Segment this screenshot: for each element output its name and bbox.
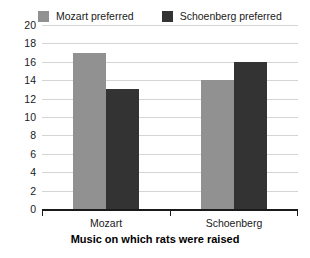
legend-label-mozart-preferred: Mozart preferred [56, 11, 134, 22]
legend-item-mozart-preferred: Mozart preferred [38, 11, 134, 22]
y-axis-tick-label: 8 [0, 130, 36, 140]
y-axis-tick-label: 4 [0, 167, 36, 177]
y-axis-tick-labels: 02468101214161820 [0, 25, 36, 209]
legend-label-schoenberg-preferred: Schoenberg preferred [180, 11, 282, 22]
y-axis-tick-label: 0 [0, 204, 36, 214]
chart-legend: Mozart preferred Schoenberg preferred [38, 6, 302, 26]
y-axis-tick-label: 10 [0, 112, 36, 122]
bar-chart: Mozart preferred Schoenberg preferred 02… [0, 0, 310, 258]
y-axis-tick-label: 12 [0, 94, 36, 104]
legend-item-schoenberg-preferred: Schoenberg preferred [162, 11, 282, 22]
y-axis-tick-label: 6 [0, 149, 36, 159]
x-axis-tick-start [42, 211, 43, 216]
y-axis-tick-label: 16 [0, 57, 36, 67]
x-axis-title: Music on which rats were raised [0, 233, 310, 245]
y-axis-tick-label: 2 [0, 186, 36, 196]
x-axis-category-label: Schoenberg [170, 217, 298, 230]
x-axis-category-label: Mozart [42, 217, 170, 230]
x-axis-tick-end [297, 211, 298, 216]
bar [73, 53, 106, 209]
bars-layer [42, 25, 298, 209]
legend-swatch-icon-mozart [38, 11, 49, 22]
y-axis-tick-label: 14 [0, 75, 36, 85]
y-axis-tick-label: 18 [0, 38, 36, 48]
bar [106, 89, 139, 209]
x-axis-tick-middle [170, 211, 171, 216]
legend-swatch-icon-schoenberg [162, 11, 173, 22]
bar [201, 80, 234, 209]
y-axis-tick-label: 20 [0, 20, 36, 30]
bar [234, 62, 267, 209]
x-axis-category-labels: MozartSchoenberg [42, 217, 298, 233]
